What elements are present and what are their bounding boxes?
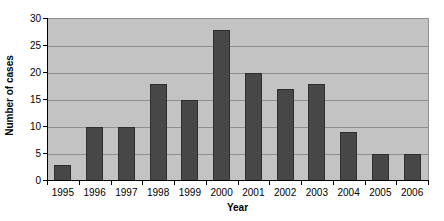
y-axis-title: Number of cases xyxy=(0,0,18,190)
bar[interactable] xyxy=(340,132,357,181)
x-tick-mark xyxy=(301,181,302,185)
x-tick-label: 2004 xyxy=(338,187,360,198)
y-tick-label: 30 xyxy=(30,13,41,24)
x-tick-mark xyxy=(111,181,112,185)
bar[interactable] xyxy=(372,154,389,181)
x-tick-mark xyxy=(142,181,143,185)
bar[interactable] xyxy=(86,127,103,181)
y-tick-label: 5 xyxy=(35,148,41,159)
bar[interactable] xyxy=(245,73,262,181)
x-tick-label: 1995 xyxy=(52,187,74,198)
x-tick-label: 2003 xyxy=(306,187,328,198)
y-tick-mark xyxy=(43,18,47,19)
bars-layer xyxy=(47,19,428,181)
y-axis-tick-labels: 051015202530 xyxy=(18,18,43,180)
x-tick-label: 2002 xyxy=(274,187,296,198)
x-tick-mark xyxy=(206,181,207,185)
x-tick-label: 1998 xyxy=(147,187,169,198)
bar-chart: Number of cases 051015202530 19951996199… xyxy=(0,0,444,221)
x-axis-title: Year xyxy=(47,202,428,213)
bar[interactable] xyxy=(118,127,135,181)
y-tick-mark xyxy=(43,126,47,127)
x-tick-label: 1997 xyxy=(115,187,137,198)
y-tick-mark xyxy=(43,99,47,100)
y-tick-mark xyxy=(43,72,47,73)
x-tick-mark xyxy=(174,181,175,185)
x-tick-mark xyxy=(365,181,366,185)
x-tick-mark xyxy=(269,181,270,185)
y-tick-label: 0 xyxy=(35,175,41,186)
x-tick-label: 2001 xyxy=(242,187,264,198)
x-tick-label: 2005 xyxy=(369,187,391,198)
y-tick-label: 25 xyxy=(30,40,41,51)
x-tick-mark xyxy=(428,181,429,185)
y-axis-title-text: Number of cases xyxy=(4,55,15,136)
plot-area xyxy=(47,18,429,181)
bar[interactable] xyxy=(54,165,71,181)
x-tick-label: 2006 xyxy=(401,187,423,198)
x-axis-tick-labels: 1995199619971998199920002001200220032004… xyxy=(47,187,428,201)
y-tick-label: 10 xyxy=(30,121,41,132)
x-tick-mark xyxy=(79,181,80,185)
x-tick-label: 2000 xyxy=(211,187,233,198)
x-tick-mark xyxy=(47,181,48,185)
x-tick-label: 1999 xyxy=(179,187,201,198)
bar[interactable] xyxy=(404,154,421,181)
y-axis-line xyxy=(47,18,48,181)
bar[interactable] xyxy=(150,84,167,181)
y-tick-label: 15 xyxy=(30,94,41,105)
y-tick-mark xyxy=(43,45,47,46)
x-tick-mark xyxy=(238,181,239,185)
x-tick-mark xyxy=(396,181,397,185)
bar[interactable] xyxy=(181,100,198,181)
bar[interactable] xyxy=(308,84,325,181)
y-tick-label: 20 xyxy=(30,67,41,78)
bar[interactable] xyxy=(277,89,294,181)
bar[interactable] xyxy=(213,30,230,181)
y-tick-mark xyxy=(43,153,47,154)
x-tick-label: 1996 xyxy=(84,187,106,198)
x-tick-mark xyxy=(333,181,334,185)
